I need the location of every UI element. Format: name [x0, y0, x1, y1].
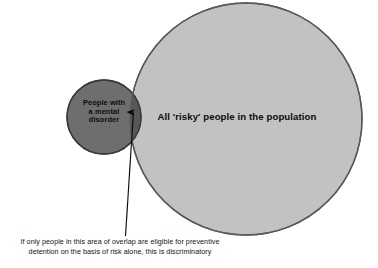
circle-mental-disorder-label: People with a mental disorder	[68, 99, 140, 125]
overlap-caption-line-2: detention on the basis of risk alone, th…	[2, 247, 238, 257]
circle-risky-population-label: All 'risky' people in the population	[144, 111, 330, 122]
overlap-caption-line-1: If only people in this area of overlap a…	[2, 237, 238, 247]
venn-diagram-canvas	[0, 0, 378, 268]
overlap-caption: If only people in this area of overlap a…	[2, 237, 238, 257]
venn-diagram: People with a mental disorder All 'risky…	[0, 0, 378, 268]
